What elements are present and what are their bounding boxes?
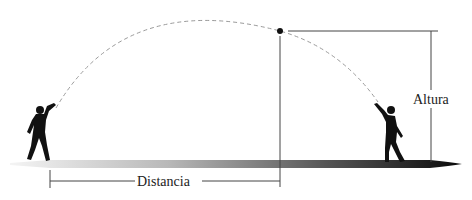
distance-label: Distancia xyxy=(137,174,191,189)
catcher-silhouette-icon xyxy=(374,103,405,162)
height-label: Altura xyxy=(413,92,450,107)
projectile-diagram: Altura Distancia xyxy=(0,0,472,200)
trajectory-arc xyxy=(56,20,378,108)
ground-bar xyxy=(10,160,462,168)
apex-ball xyxy=(277,28,283,34)
thrower-silhouette-icon xyxy=(27,103,56,161)
